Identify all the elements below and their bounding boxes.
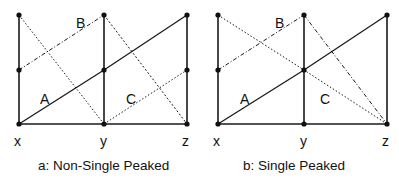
axis-label-z: z xyxy=(182,133,189,149)
curve-label-c: C xyxy=(126,91,136,107)
curve-label-a: A xyxy=(40,91,50,107)
preference-line-b xyxy=(19,15,104,70)
caption-a: a: Non-Single Peaked xyxy=(38,158,169,173)
axis-label-x: x xyxy=(213,133,220,149)
axis-label-x: x xyxy=(14,133,21,149)
caption-b: b: Single Peaked xyxy=(243,158,345,173)
axis-label-z: z xyxy=(382,133,389,149)
preference-line-c-right xyxy=(104,70,187,124)
axis-label-y: y xyxy=(300,133,307,149)
curve-label-a: A xyxy=(240,91,250,107)
preference-line-b-right xyxy=(104,15,187,124)
panel-a: A B C x y z a: Non-Single Peaked xyxy=(14,12,190,173)
preference-line-c-left xyxy=(19,15,104,124)
axis-label-y: y xyxy=(100,133,107,149)
curve-label-c: C xyxy=(320,91,330,107)
preference-line-b-right xyxy=(304,15,387,124)
curve-label-b: B xyxy=(275,15,284,31)
panel-b: A B C x y z b: Single Peaked xyxy=(213,12,390,173)
diagram: A B C x y z a: Non-Single Peaked A B C x… xyxy=(0,0,399,182)
curve-label-b: B xyxy=(76,15,85,31)
